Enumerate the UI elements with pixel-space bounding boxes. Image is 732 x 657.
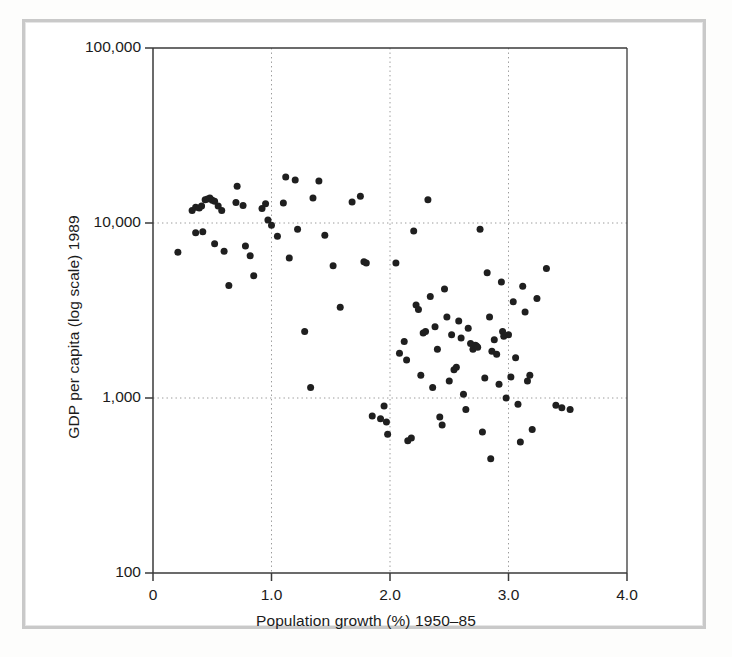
scatter-point [401, 338, 408, 345]
scatter-point [477, 226, 484, 233]
scatter-point [526, 372, 533, 379]
scatter-point [529, 426, 536, 433]
scatter-point [558, 404, 565, 411]
scatter-point [330, 262, 337, 269]
scatter-point [486, 314, 493, 321]
data-points [174, 174, 573, 463]
scatter-point [282, 174, 289, 181]
scatter-point [396, 350, 403, 357]
scatter-point [321, 232, 328, 239]
scatter-point [383, 418, 390, 425]
x-tick-label: 3.0 [464, 586, 554, 604]
scatter-point [462, 406, 469, 413]
scatter-point [543, 265, 550, 272]
scatter-point [465, 325, 472, 332]
scatter-point [487, 455, 494, 462]
scatter-point [441, 285, 448, 292]
scatter-point [315, 177, 322, 184]
y-tick-label: 100 [23, 563, 141, 581]
scatter-point [232, 199, 239, 206]
scatter-point [309, 194, 316, 201]
scatter-point [514, 401, 521, 408]
y-tick-label: 100,000 [23, 38, 141, 56]
scatter-point [519, 283, 526, 290]
scatter-point [522, 309, 529, 316]
scatter-point [424, 196, 431, 203]
scatter-point [403, 356, 410, 363]
scatter-point [174, 249, 181, 256]
scatter-plot [0, 0, 732, 657]
scatter-point [498, 279, 505, 286]
scatter-point [286, 255, 293, 262]
scatter-point [446, 378, 453, 385]
scatter-point [415, 306, 422, 313]
scatter-point [292, 177, 299, 184]
scatter-point [250, 272, 257, 279]
scatter-point [192, 229, 199, 236]
scatter-point [512, 354, 519, 361]
scatter-point [240, 202, 247, 209]
scatter-point [211, 240, 218, 247]
scatter-point [505, 331, 512, 338]
scatter-point [533, 295, 540, 302]
scatter-point [357, 193, 364, 200]
scatter-point [474, 344, 481, 351]
scatter-point [307, 384, 314, 391]
scatter-point [247, 252, 254, 259]
scatter-point [363, 260, 370, 267]
figure-container: 100,00010,0001,00010001.02.03.04.0 Popul… [0, 0, 732, 657]
scatter-point [491, 336, 498, 343]
scatter-point [455, 318, 462, 325]
scatter-point [221, 248, 228, 255]
scatter-point [443, 314, 450, 321]
scatter-point [384, 431, 391, 438]
x-tick-label: 4.0 [582, 586, 672, 604]
scatter-point [242, 242, 249, 249]
scatter-point [453, 364, 460, 371]
scatter-point [510, 298, 517, 305]
scatter-point [392, 260, 399, 267]
scatter-point [199, 228, 206, 235]
scatter-point [507, 373, 514, 380]
scatter-point [439, 422, 446, 429]
scatter-point [479, 428, 486, 435]
scatter-point [408, 435, 415, 442]
x-tick-label: 2.0 [345, 586, 435, 604]
y-axis-title: GDP per capita (log scale) 1989 [65, 137, 83, 517]
scatter-point [349, 198, 356, 205]
gridlines [153, 48, 627, 573]
scatter-point [484, 269, 491, 276]
scatter-point [294, 226, 301, 233]
scatter-point [262, 200, 269, 207]
scatter-point [427, 293, 434, 300]
scatter-point [337, 304, 344, 311]
x-tick-label: 0 [108, 586, 198, 604]
scatter-point [268, 222, 275, 229]
scatter-point [434, 346, 441, 353]
tick-marks [145, 48, 627, 581]
scatter-point [517, 439, 524, 446]
scatter-point [481, 375, 488, 382]
scatter-point [410, 228, 417, 235]
scatter-point [458, 335, 465, 342]
scatter-point [381, 403, 388, 410]
scatter-point [496, 381, 503, 388]
x-tick-label: 1.0 [227, 586, 317, 604]
scatter-point [280, 200, 287, 207]
scatter-point [369, 412, 376, 419]
scatter-point [234, 183, 241, 190]
scatter-point [225, 282, 232, 289]
scatter-point [417, 372, 424, 379]
scatter-point [377, 415, 384, 422]
scatter-point [432, 323, 439, 330]
scatter-point [460, 391, 467, 398]
scatter-point [448, 331, 455, 338]
scatter-point [503, 395, 510, 402]
scatter-point [567, 406, 574, 413]
scatter-point [493, 351, 500, 358]
scatter-point [436, 413, 443, 420]
x-axis-title: Population growth (%) 1950–85 [0, 612, 732, 630]
scatter-point [429, 384, 436, 391]
scatter-point [274, 233, 281, 240]
scatter-point [301, 328, 308, 335]
